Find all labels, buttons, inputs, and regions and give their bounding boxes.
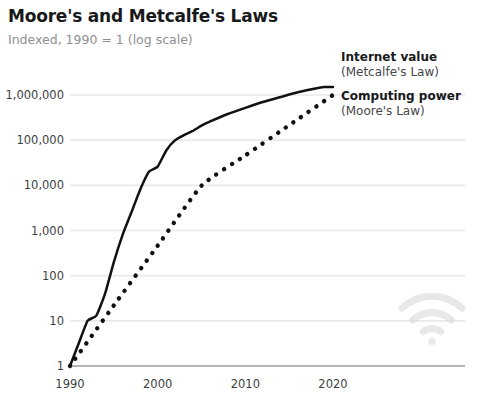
- series-label-internet-value: Internet value (Metcalfe's Law): [341, 50, 439, 80]
- wifi-icon: [396, 289, 468, 347]
- series-label-computing-power-sublabel: (Moore's Law): [341, 104, 461, 119]
- series-label-internet-value-name: Internet value: [341, 50, 439, 65]
- series-label-computing-power-name: Computing power: [341, 89, 461, 104]
- series-label-internet-value-sublabel: (Metcalfe's Law): [341, 65, 439, 80]
- x-tick-label: 2010: [231, 378, 260, 391]
- x-tick-label: 1990: [55, 378, 84, 391]
- series-label-computing-power: Computing power (Moore's Law): [341, 89, 461, 119]
- chart-plot-area: 1101001,00010,000100,0001,000,000 199020…: [0, 0, 486, 415]
- x-tick-label: 2020: [318, 378, 347, 391]
- x-tick-label: 2000: [143, 378, 172, 391]
